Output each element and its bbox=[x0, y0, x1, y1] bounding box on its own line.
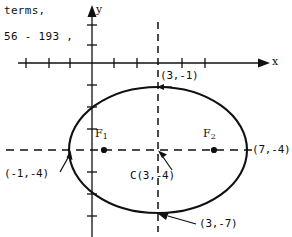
label-vertex-left: (-1,-4) bbox=[4, 168, 49, 179]
label-vertex-top: (3,-1) bbox=[160, 70, 199, 81]
leader-vertex-top bbox=[157, 84, 172, 90]
label-center: C(3,-4) bbox=[130, 170, 175, 181]
label-focus-2: F2 bbox=[203, 128, 216, 139]
label-focus-1-subscript: 1 bbox=[103, 132, 108, 141]
label-focus-1-base: F bbox=[95, 127, 103, 140]
label-vertex-right: (7,-4) bbox=[252, 144, 291, 155]
x-axis bbox=[18, 58, 270, 68]
label-focus-2-base: F bbox=[203, 127, 211, 140]
leader-center bbox=[158, 151, 172, 171]
label-focus-1: F1 bbox=[95, 128, 108, 139]
leader-vertex-bottom bbox=[157, 212, 196, 224]
ellipse-figure bbox=[0, 0, 292, 237]
label-vertex-bottom: (3,-7) bbox=[199, 218, 238, 229]
label-focus-2-subscript: 2 bbox=[211, 132, 216, 141]
focus-1-dot bbox=[101, 147, 107, 153]
focus-2-dot bbox=[211, 147, 217, 153]
y-axis-label: y bbox=[96, 4, 102, 15]
y-axis bbox=[87, 5, 97, 237]
figure-page: terms, 56 - 193 , bbox=[0, 0, 292, 237]
x-axis-label: x bbox=[272, 56, 278, 67]
